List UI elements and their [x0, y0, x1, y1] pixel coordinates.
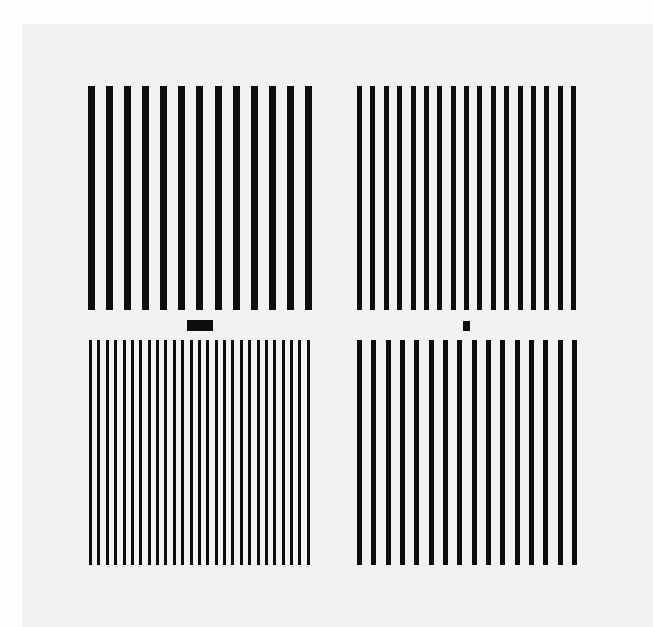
grating-bar	[287, 86, 294, 310]
grating-bar	[251, 86, 258, 310]
grating-bar	[269, 86, 276, 310]
grating-bar	[164, 340, 167, 565]
grating-bar	[106, 340, 109, 565]
grating-bar	[558, 340, 563, 565]
grating-bar	[491, 86, 496, 310]
grating-bar	[472, 340, 477, 565]
grating-bar	[486, 340, 491, 565]
grating-bar	[190, 340, 193, 565]
grating-bar	[531, 86, 536, 310]
grating-bar	[206, 340, 209, 565]
marker-left	[187, 320, 213, 331]
grating-bar	[571, 86, 576, 310]
grating-top-right	[357, 86, 576, 310]
grating-bar	[558, 86, 563, 310]
grating-top-left	[88, 86, 312, 310]
grating-bar	[215, 340, 218, 565]
grating-bar	[298, 340, 301, 565]
grating-bottom-right	[357, 340, 577, 565]
grating-bar	[257, 340, 260, 565]
grating-bar	[572, 340, 577, 565]
grating-bar	[424, 86, 429, 310]
grating-bar	[477, 86, 482, 310]
grating-bar	[142, 86, 149, 310]
grating-bar	[464, 86, 469, 310]
grating-bar	[106, 86, 113, 310]
grating-bar	[457, 340, 462, 565]
grating-bar	[123, 340, 126, 565]
grating-bar	[181, 340, 184, 565]
grating-bar	[411, 86, 416, 310]
grating-bar	[215, 86, 222, 310]
grating-bar	[518, 86, 523, 310]
grating-bar	[543, 340, 548, 565]
grating-bar	[97, 340, 100, 565]
grating-bar	[131, 340, 134, 565]
grating-bar	[357, 340, 362, 565]
grating-bar	[386, 340, 391, 565]
grating-bar	[307, 340, 310, 565]
grating-bar	[357, 86, 362, 310]
grating-bar	[451, 86, 456, 310]
grating-bar	[429, 340, 434, 565]
grating-bar	[290, 340, 293, 565]
marker-right	[463, 321, 470, 331]
grating-bar	[248, 340, 251, 565]
grating-bar	[400, 340, 405, 565]
grating-bar	[384, 86, 389, 310]
grating-bar	[139, 340, 142, 565]
grating-bar	[89, 340, 92, 565]
grating-bottom-left	[89, 340, 310, 565]
grating-bar	[515, 340, 520, 565]
grating-bar	[178, 86, 185, 310]
grating-bar	[173, 340, 176, 565]
grating-bar	[160, 86, 167, 310]
grating-bar	[148, 340, 151, 565]
grating-bar	[198, 340, 201, 565]
grating-bar	[414, 340, 419, 565]
grating-bar	[223, 340, 226, 565]
grating-bar	[437, 86, 442, 310]
grating-bar	[273, 340, 276, 565]
grating-bar	[370, 86, 375, 310]
grating-bar	[124, 86, 131, 310]
grating-bar	[443, 340, 448, 565]
grating-bar	[231, 340, 234, 565]
grating-bar	[544, 86, 549, 310]
grating-bar	[88, 86, 95, 310]
grating-bar	[240, 340, 243, 565]
grating-bar	[233, 86, 240, 310]
grating-bar	[371, 340, 376, 565]
grating-bar	[265, 340, 268, 565]
grating-bar	[305, 86, 312, 310]
grating-bar	[504, 86, 509, 310]
grating-bar	[529, 340, 534, 565]
grating-bar	[397, 86, 402, 310]
grating-bar	[196, 86, 203, 310]
grating-bar	[282, 340, 285, 565]
grating-bar	[500, 340, 505, 565]
grating-bar	[114, 340, 117, 565]
grating-bar	[156, 340, 159, 565]
